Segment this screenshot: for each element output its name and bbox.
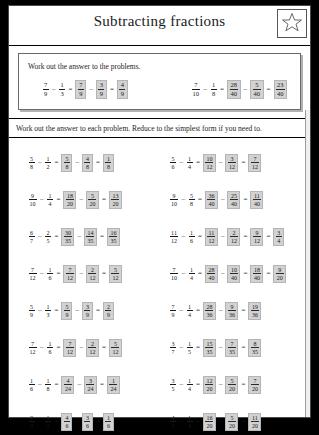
denominator: 8	[46, 385, 51, 392]
answer-fraction[interactable]: 36	[82, 413, 93, 431]
answer-fraction[interactable]: 79	[75, 80, 86, 99]
answer-fraction[interactable]: 1840	[250, 265, 263, 283]
problem-item: 58–12=58–48=18	[9, 144, 160, 181]
minus-sign: –	[38, 418, 42, 425]
answer-fraction[interactable]: 2340	[274, 80, 288, 99]
answer-fraction[interactable]: 18	[103, 154, 114, 172]
answer-fraction[interactable]: 520	[86, 191, 99, 209]
denominator: 8	[85, 163, 90, 170]
equals-sign: =	[100, 233, 104, 240]
answer-fraction[interactable]: 124	[107, 376, 120, 394]
answer-fraction[interactable]: 3640	[205, 191, 218, 209]
answer-fraction[interactable]: 2840	[227, 80, 241, 99]
answer-fraction[interactable]: 520	[225, 376, 238, 394]
minus-sign: –	[75, 159, 79, 166]
minus-sign: –	[180, 307, 184, 314]
fraction: 14	[186, 415, 193, 429]
denominator: 36	[228, 311, 236, 318]
answer-fraction[interactable]: 1535	[203, 339, 216, 357]
answer-fraction[interactable]: 212	[86, 339, 99, 357]
answer-fraction[interactable]: 48	[82, 154, 93, 172]
equals-sign: =	[55, 381, 59, 388]
denominator: 5	[171, 385, 176, 392]
problem-item: 79–14=2836–936=1936	[160, 292, 311, 329]
problem-grid: 58–12=58–48=18 56–14=1012–312=712 910–14…	[9, 138, 310, 435]
answer-fraction[interactable]: 1635	[107, 228, 120, 246]
answer-fraction[interactable]: 1140	[250, 191, 263, 209]
answer-fraction[interactable]: 712	[63, 265, 76, 283]
answer-fraction[interactable]: 49	[117, 80, 128, 99]
answer-fraction[interactable]: 1120	[248, 413, 261, 431]
answer-fraction[interactable]: 424	[61, 376, 74, 394]
answer-fraction[interactable]: 920	[273, 265, 286, 283]
answer-fraction[interactable]: 58	[61, 154, 72, 172]
minus-sign: –	[221, 233, 225, 240]
answer-fraction[interactable]: 835	[248, 339, 261, 357]
answer-fraction[interactable]: 29	[103, 302, 114, 320]
answer-fraction[interactable]: 324	[84, 376, 97, 394]
denominator: 10	[170, 200, 178, 207]
answer-fraction[interactable]: 39	[82, 302, 93, 320]
problem-equation: 37–15=1535–735=835	[170, 339, 262, 357]
answer-fraction[interactable]: 1112	[205, 228, 218, 246]
answer-fraction[interactable]: 2840	[205, 265, 218, 283]
answer-fraction[interactable]: 512	[109, 265, 122, 283]
denominator: 3	[29, 422, 34, 429]
answer-fraction[interactable]: 912	[250, 228, 263, 246]
fraction: 13	[45, 304, 52, 318]
denominator: 12	[111, 274, 119, 281]
equals-sign: =	[196, 381, 200, 388]
answer-fraction[interactable]: 936	[225, 302, 238, 320]
answer-fraction[interactable]: 520	[225, 413, 238, 431]
fraction: 58	[188, 193, 195, 207]
answer-fraction[interactable]: 512	[109, 339, 122, 357]
answer-fraction[interactable]: 1220	[203, 376, 216, 394]
minus-sign: –	[40, 270, 44, 277]
answer-fraction[interactable]: 212	[86, 265, 99, 283]
answer-fraction[interactable]: 712	[63, 339, 76, 357]
answer-fraction[interactable]: 59	[61, 302, 72, 320]
answer-fraction[interactable]: 540	[250, 80, 264, 99]
fraction: 910	[28, 193, 37, 207]
answer-fraction[interactable]: 720	[248, 376, 261, 394]
answer-fraction[interactable]: 2540	[227, 191, 240, 209]
problem-equation: 16–18=424–324=124	[28, 376, 120, 394]
answer-fraction[interactable]: 1620	[203, 413, 216, 431]
denominator: 9	[99, 90, 104, 97]
denominator: 5	[46, 237, 51, 244]
problem-equation: 58–12=58–48=18	[28, 154, 114, 172]
problem-equation: 712–16=712–212=512	[28, 265, 122, 283]
problem-equation: 1112–16=1112–212=912=34	[170, 228, 285, 246]
denominator: 5	[187, 348, 192, 355]
equals-sign: =	[198, 270, 202, 277]
fraction: 910	[170, 193, 179, 207]
answer-fraction[interactable]: 212	[227, 228, 240, 246]
denominator: 12	[88, 348, 96, 355]
equals-sign: =	[55, 159, 59, 166]
answer-fraction[interactable]: 16	[103, 413, 114, 431]
answer-fraction[interactable]: 1936	[248, 302, 261, 320]
answer-fraction[interactable]: 39	[96, 80, 107, 99]
answer-fraction[interactable]: 312	[225, 154, 238, 172]
answer-fraction[interactable]: 3035	[61, 228, 74, 246]
minus-sign: –	[204, 86, 208, 93]
equals-sign: =	[241, 159, 245, 166]
denominator: 20	[88, 200, 96, 207]
answer-fraction[interactable]: 46	[61, 413, 72, 431]
denominator: 6	[171, 163, 176, 170]
answer-fraction[interactable]: 712	[248, 154, 261, 172]
fraction: 13	[59, 82, 66, 97]
answer-fraction[interactable]: 1435	[84, 228, 97, 246]
numerator: 4	[120, 82, 125, 89]
minus-sign: –	[180, 381, 184, 388]
answer-fraction[interactable]: 2836	[203, 302, 216, 320]
answer-fraction[interactable]: 1012	[203, 154, 216, 172]
answer-fraction[interactable]: 1820	[63, 191, 76, 209]
denominator: 4	[189, 274, 194, 281]
problem-item: 910–58=3640–2540=1140	[160, 181, 311, 218]
answer-fraction[interactable]: 1320	[109, 191, 122, 209]
answer-fraction[interactable]: 735	[225, 339, 238, 357]
answer-fraction[interactable]: 1040	[227, 265, 240, 283]
answer-fraction[interactable]: 34	[273, 228, 284, 246]
equals-sign: =	[196, 418, 200, 425]
